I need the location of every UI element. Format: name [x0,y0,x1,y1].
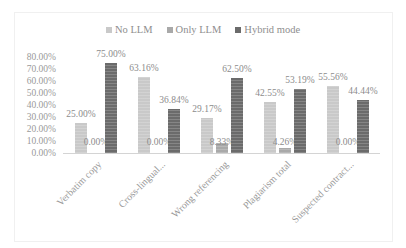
legend-swatch-only-llm [167,27,173,33]
chart-legend: No LLM Only LLM Hybrid mode [0,24,406,35]
y-tick-label: 20.00% [10,124,56,134]
bar-hybrid-mode [294,89,306,153]
legend-label: No LLM [115,24,153,35]
y-tick-label: 30.00% [10,112,56,122]
legend-item-only-llm: Only LLM [167,24,222,35]
data-label: 55.56% [318,72,347,82]
data-label: 75.00% [96,49,125,59]
legend-item-no-llm: No LLM [106,24,153,35]
y-tick-label: 70.00% [10,64,56,74]
bar-hybrid-mode [231,78,243,153]
data-label: 62.50% [222,64,251,74]
bar-hybrid-mode [357,100,369,153]
legend-swatch-hybrid-mode [235,27,241,33]
legend-label: Only LLM [176,24,222,35]
y-tick-label: 40.00% [10,100,56,110]
y-tick-label: 50.00% [10,88,56,98]
bar-only-llm [279,148,291,153]
y-tick-label: 80.00% [10,52,56,62]
y-tick-label: 10.00% [10,136,56,146]
data-label: 63.16% [129,63,158,73]
data-label: 25.00% [66,109,95,119]
y-tick-label: 0.00% [10,148,56,158]
data-label: 29.17% [192,104,221,114]
legend-label: Hybrid mode [244,24,300,35]
x-axis-line [63,153,380,154]
data-label: 44.44% [348,86,377,96]
legend-swatch-no-llm [106,27,112,33]
bar-hybrid-mode [168,109,180,153]
data-label: 36.84% [159,95,188,105]
data-label: 42.55% [255,88,284,98]
legend-item-hybrid-mode: Hybrid mode [235,24,300,35]
data-label: 53.19% [285,75,314,85]
bar-hybrid-mode [105,63,117,153]
y-tick-label: 60.00% [10,76,56,86]
bar-no-llm [201,118,213,153]
